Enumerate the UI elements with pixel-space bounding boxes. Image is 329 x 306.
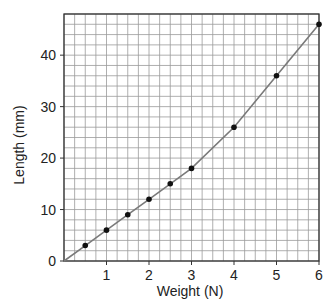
data-point	[82, 243, 88, 249]
data-point	[189, 166, 195, 172]
x-tick-label: 5	[273, 267, 281, 283]
data-point	[274, 73, 280, 79]
data-point	[146, 196, 152, 202]
x-ticks: 123456	[103, 261, 324, 283]
x-tick-label: 4	[230, 267, 238, 283]
data-point	[167, 181, 173, 187]
y-tick-label: 0	[48, 253, 56, 269]
x-tick-label: 3	[188, 267, 196, 283]
y-tick-label: 40	[40, 47, 56, 63]
y-tick-label: 10	[40, 202, 56, 218]
data-point	[316, 21, 322, 27]
y-tick-label: 30	[40, 99, 56, 115]
data-point	[125, 212, 131, 218]
line-chart: 010203040 123456 Weight (N) Length (mm)	[0, 0, 329, 306]
grid	[64, 14, 319, 261]
y-ticks: 010203040	[40, 47, 64, 269]
x-axis-label: Weight (N)	[157, 283, 224, 299]
data-point	[104, 227, 110, 233]
y-tick-label: 20	[40, 150, 56, 166]
x-tick-label: 1	[103, 267, 111, 283]
x-tick-label: 2	[145, 267, 153, 283]
data-point	[231, 124, 237, 130]
x-tick-label: 6	[315, 267, 323, 283]
y-axis-label: Length (mm)	[11, 105, 27, 184]
